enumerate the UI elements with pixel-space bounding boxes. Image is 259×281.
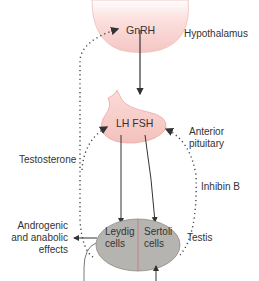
effects-line-1: Androgenic xyxy=(10,220,68,232)
leydig-label-2: cells xyxy=(105,238,125,250)
leydig-label-1: Leydig xyxy=(105,226,134,238)
effects-line-2: and anabolic xyxy=(0,232,68,244)
sertoli-label-1: Sertoli xyxy=(144,226,172,238)
sertoli-label-2: cells xyxy=(144,238,164,250)
gnrh-label: GnRH xyxy=(126,24,155,36)
effects-line-3: effects xyxy=(10,244,68,256)
lh-fsh-label: LH FSH xyxy=(116,117,153,129)
pituitary-label: pituitary xyxy=(189,138,224,150)
testosterone-label: Testosterone xyxy=(19,154,76,166)
testis-label: Testis xyxy=(187,232,213,244)
inhibin-b-label: Inhibin B xyxy=(201,181,240,193)
anterior-label: Anterior xyxy=(189,126,224,138)
hypothalamus-label: Hypothalamus xyxy=(184,28,248,40)
